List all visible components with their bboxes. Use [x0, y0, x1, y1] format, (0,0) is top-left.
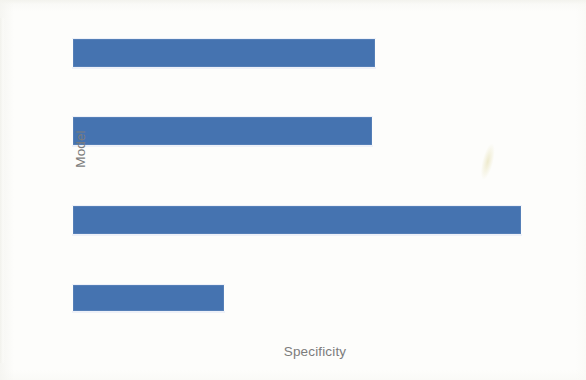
- x-axis-label: Specificity: [0, 344, 586, 359]
- bar-2: [73, 117, 372, 145]
- bar-1: [73, 39, 375, 67]
- y-axis-label: Model: [73, 114, 91, 184]
- bar-3: [73, 206, 521, 234]
- plot-area: [0, 0, 586, 380]
- bar-4: [73, 285, 224, 311]
- bar-chart-figure: Model Specificity: [0, 0, 586, 380]
